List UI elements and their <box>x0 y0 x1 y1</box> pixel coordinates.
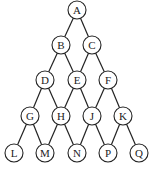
node-label: L <box>11 147 18 159</box>
node-B: B <box>52 36 70 54</box>
lattice-diagram: ABCDEFGHJKLMNPQ <box>0 0 156 170</box>
node-G: G <box>21 107 39 125</box>
node-label: F <box>105 74 111 86</box>
edge-C-E <box>81 53 89 71</box>
node-K: K <box>114 107 132 125</box>
node-H: H <box>52 107 70 125</box>
node-label: A <box>73 4 81 16</box>
node-Q: Q <box>130 144 148 162</box>
edge-K-P <box>111 124 119 144</box>
node-D: D <box>36 71 54 89</box>
edge-B-E <box>65 53 74 72</box>
edge-J-N <box>80 124 88 144</box>
node-A: A <box>68 1 86 19</box>
node-label: B <box>57 39 64 51</box>
node-label: J <box>90 110 95 122</box>
node-J: J <box>83 107 101 125</box>
edge-K-Q <box>127 124 136 144</box>
node-L: L <box>5 144 23 162</box>
node-E: E <box>68 71 86 89</box>
edge-F-K <box>111 88 119 107</box>
edge-H-M <box>49 124 58 144</box>
edge-C-F <box>96 53 105 72</box>
edge-G-M <box>33 124 41 144</box>
node-label: P <box>105 147 111 159</box>
edge-H-N <box>65 124 74 144</box>
node-label: N <box>73 147 81 159</box>
edge-E-H <box>65 88 74 108</box>
diagram-canvas: ABCDEFGHJKLMNPQ <box>0 0 156 170</box>
node-label: Q <box>135 147 143 159</box>
node-F: F <box>99 71 117 89</box>
edge-G-L <box>18 124 27 144</box>
node-label: D <box>41 74 49 86</box>
node-label: G <box>26 110 34 122</box>
nodes-group: ABCDEFGHJKLMNPQ <box>5 1 148 162</box>
edge-A-B <box>65 18 74 37</box>
node-label: C <box>88 39 95 51</box>
node-label: K <box>119 110 127 122</box>
node-label: H <box>57 110 65 122</box>
edge-B-D <box>49 53 58 72</box>
node-P: P <box>99 144 117 162</box>
node-N: N <box>68 144 86 162</box>
node-C: C <box>83 36 101 54</box>
edge-J-P <box>96 124 105 144</box>
edge-D-H <box>49 88 58 108</box>
edge-F-J <box>96 88 105 108</box>
edge-A-C <box>81 18 89 36</box>
node-label: M <box>40 147 50 159</box>
edge-D-G <box>33 88 41 107</box>
node-label: E <box>74 74 81 86</box>
node-M: M <box>36 144 54 162</box>
edge-E-J <box>80 88 88 107</box>
